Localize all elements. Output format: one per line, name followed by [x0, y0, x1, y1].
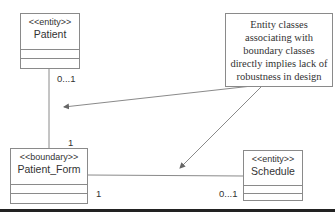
operations-compartment — [11, 193, 87, 205]
operations-compartment — [21, 58, 79, 70]
multiplicity-form-end-top: 1 — [68, 137, 73, 148]
multiplicity-schedule-end: 0...1 — [219, 188, 238, 199]
association-form-schedule — [88, 175, 243, 176]
class-header: <<boundary>> Patient_Form — [11, 149, 87, 184]
uml-class-diagram: <<entity>> Patient <<boundary>> Patient_… — [0, 0, 335, 217]
class-patient-form[interactable]: <<boundary>> Patient_Form — [10, 148, 88, 204]
class-name: Patient_Form — [11, 163, 87, 176]
design-note: Entity classes associating with boundary… — [225, 13, 333, 87]
stereotype-label: <<entity>> — [21, 14, 79, 28]
class-header: <<entity>> Schedule — [244, 151, 302, 185]
note-text: Entity classes associating with boundary… — [229, 18, 329, 83]
class-schedule[interactable]: <<entity>> Schedule — [243, 150, 303, 201]
stereotype-label: <<boundary>> — [11, 149, 87, 163]
bottom-divider — [0, 209, 335, 212]
attributes-compartment — [21, 49, 79, 58]
class-header: <<entity>> Patient — [21, 14, 79, 49]
note-arrow-to-patient-association — [64, 86, 252, 107]
stereotype-label: <<entity>> — [244, 151, 302, 165]
multiplicity-patient-end: 0...1 — [57, 73, 76, 84]
class-patient[interactable]: <<entity>> Patient — [20, 13, 80, 69]
operations-compartment — [244, 193, 302, 202]
attributes-compartment — [244, 185, 302, 193]
attributes-compartment — [11, 184, 87, 193]
multiplicity-form-end-right: 1 — [96, 188, 101, 199]
class-name: Schedule — [244, 165, 302, 178]
class-name: Patient — [21, 28, 79, 41]
